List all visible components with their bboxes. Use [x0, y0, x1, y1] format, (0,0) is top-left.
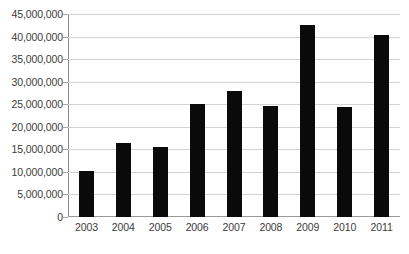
y-axis-tick-label: 15,000,000	[11, 143, 63, 155]
bar	[79, 171, 94, 217]
bar	[153, 147, 168, 217]
x-axis-tick-label: 2009	[296, 221, 319, 233]
bar	[374, 35, 389, 217]
x-axis-tick-label: 2007	[223, 221, 246, 233]
y-axis-tick-label: 20,000,000	[11, 121, 63, 133]
y-axis-tick-label: 10,000,000	[11, 166, 63, 178]
y-axis-tick-label: 35,000,000	[11, 53, 63, 65]
bar	[116, 143, 131, 217]
x-axis-tick-labels: 200320042005200620072008200920102011	[68, 221, 400, 241]
x-axis-tick-label: 2005	[149, 221, 172, 233]
y-axis-tick-mark	[63, 217, 68, 218]
plot-area	[68, 14, 400, 217]
x-axis-tick-label: 2011	[370, 221, 392, 233]
bar	[300, 25, 315, 217]
x-axis-tick-label: 2003	[75, 221, 98, 233]
y-axis-tick-label: 25,000,000	[11, 98, 63, 110]
y-axis-tick-label: 45,000,000	[11, 8, 63, 20]
bar-series	[68, 14, 400, 217]
x-axis-tick-label: 2006	[186, 221, 209, 233]
x-axis-tick-label: 2010	[333, 221, 356, 233]
y-axis-tick-label: 5,000,000	[17, 188, 63, 200]
bar	[227, 91, 242, 217]
y-axis-tick-label: 30,000,000	[11, 76, 63, 88]
y-axis-tick-labels: 05,000,00010,000,00015,000,00020,000,000…	[0, 14, 63, 217]
x-axis-tick-label: 2008	[259, 221, 282, 233]
bar-chart: 05,000,00010,000,00015,000,00020,000,000…	[0, 0, 409, 254]
bar	[190, 104, 205, 217]
bar	[263, 106, 278, 217]
x-axis-tick-label: 2004	[112, 221, 135, 233]
y-axis-tick-label: 40,000,000	[11, 31, 63, 43]
bar	[337, 107, 352, 217]
